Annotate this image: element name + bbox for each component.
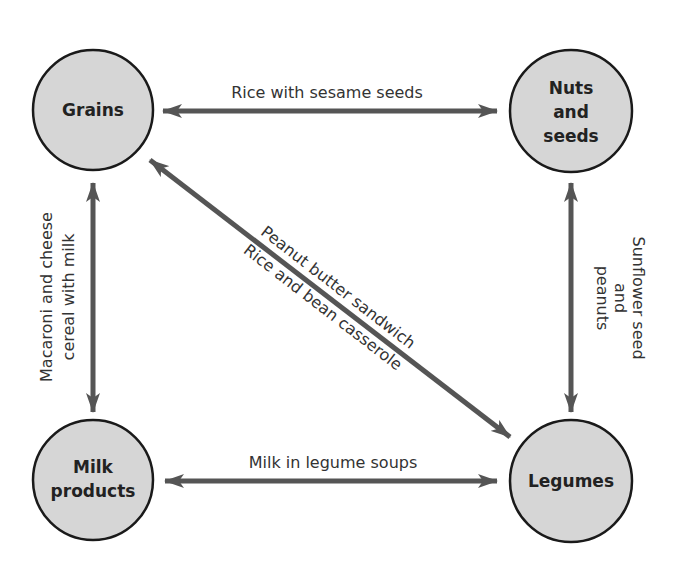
- svg-text:Nuts: Nuts: [549, 78, 594, 98]
- complementary-proteins-diagram: Rice with sesame seeds Macaroni and chee…: [0, 0, 679, 568]
- edge-label-grains-nuts: Rice with sesame seeds: [231, 83, 423, 102]
- svg-text:products: products: [51, 481, 136, 501]
- edge-label-milk-legumes: Milk in legume soups: [249, 453, 418, 472]
- node-grains: Grains: [33, 50, 153, 170]
- svg-text:Grains: Grains: [62, 100, 124, 120]
- node-milk-products: Milk products: [33, 420, 153, 540]
- svg-text:Peanut butter sandwich: Peanut butter sandwich: [257, 222, 419, 353]
- svg-text:and: and: [611, 283, 630, 313]
- node-nuts-and-seeds: Nuts and seeds: [510, 50, 632, 172]
- svg-text:Sunflower seed: Sunflower seed: [629, 236, 648, 359]
- svg-text:Milk: Milk: [73, 457, 114, 477]
- svg-text:and: and: [553, 102, 589, 122]
- arrow-grains-legumes: [150, 160, 510, 437]
- svg-text:Legumes: Legumes: [528, 471, 614, 491]
- node-legumes: Legumes: [510, 420, 632, 542]
- edge-label-grains-milk: Macaroni and cheese cereal with milk: [37, 212, 78, 382]
- svg-text:seeds: seeds: [543, 126, 598, 146]
- svg-text:Macaroni and cheese: Macaroni and cheese: [37, 212, 56, 382]
- edge-label-nuts-legumes: Sunflower seed and peanuts: [593, 236, 648, 359]
- svg-text:peanuts: peanuts: [593, 266, 612, 331]
- svg-text:cereal with milk: cereal with milk: [59, 233, 78, 361]
